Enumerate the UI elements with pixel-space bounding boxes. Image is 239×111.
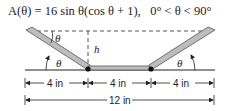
- segment-label-1: 4 in: [47, 78, 63, 89]
- left-top-theta: θ: [55, 32, 61, 44]
- left-bottom-theta: θ: [56, 57, 62, 69]
- total-width-label: 12 in: [109, 95, 131, 106]
- gutter-diagram: h θ θ θ 4 in 4 in 4 in 12 in: [0, 0, 239, 111]
- left-hinge-dot: [85, 66, 90, 71]
- height-label: h: [94, 43, 100, 55]
- segment-label-3: 4 in: [173, 78, 189, 89]
- right-theta: θ: [177, 57, 183, 69]
- left-bottom-angle-arc: [46, 56, 49, 70]
- segment-label-2: 4 in: [110, 78, 126, 89]
- right-hinge-dot: [148, 66, 153, 71]
- right-angle-arc: [191, 55, 195, 70]
- bottom-board: [88, 66, 151, 70]
